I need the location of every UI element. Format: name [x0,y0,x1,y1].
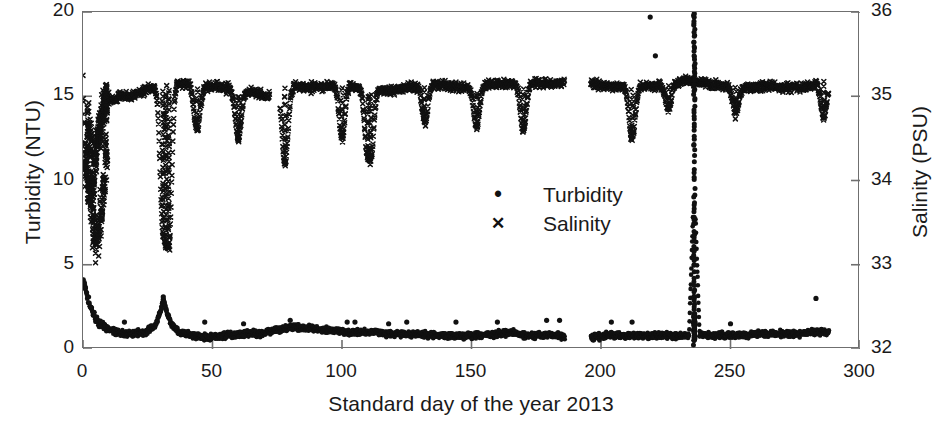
x-tick-100: 100 [311,360,371,382]
x-tick-250: 250 [700,360,760,382]
y-tick-right-36: 36 [871,0,923,21]
plot-area [82,11,859,348]
y-tick-left-5: 5 [28,252,74,274]
chart-legend: • Turbidity ✕ Salinity [487,183,657,245]
legend-dot-marker-icon: • [487,183,509,207]
y-tick-left-0: 0 [28,336,74,358]
turbidity-series [83,12,831,347]
y-tick-left-15: 15 [28,83,74,105]
x-tick-50: 50 [182,360,242,382]
legend-item-turbidity: • Turbidity [487,183,657,211]
y-tick-left-20: 20 [28,0,74,21]
y-tick-right-34: 34 [871,168,923,190]
y-tick-left-10: 10 [28,168,74,190]
y-tick-right-32: 32 [871,336,923,358]
x-tick-0: 0 [52,360,112,382]
x-tick-300: 300 [829,360,889,382]
legend-cross-marker-icon: ✕ [487,212,509,236]
legend-label-turbidity: Turbidity [543,183,623,207]
y-tick-right-33: 33 [871,252,923,274]
y-tick-right-35: 35 [871,83,923,105]
plot-canvas [83,12,860,349]
x-axis-title: Standard day of the year 2013 [82,392,860,416]
x-tick-150: 150 [441,360,501,382]
x-tick-200: 200 [570,360,630,382]
legend-item-salinity: ✕ Salinity [487,212,657,240]
scatter-chart-figure: Turbidity (NTU) Salinity (PSU) Standard … [0,0,945,427]
axis-ticks [83,12,860,349]
legend-label-salinity: Salinity [543,212,611,236]
salinity-series [83,73,831,264]
